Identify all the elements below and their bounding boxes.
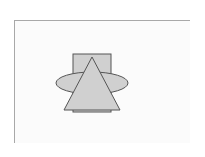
shape-group bbox=[0, 0, 205, 157]
drawing-stage bbox=[0, 0, 205, 157]
